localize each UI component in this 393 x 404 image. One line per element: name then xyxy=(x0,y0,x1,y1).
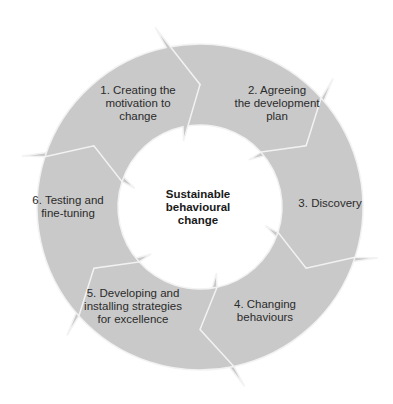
step-1-line2: motivation to xyxy=(88,97,188,110)
step-3-line1: 3. Discovery xyxy=(290,197,370,210)
step-5-line2: installing strategies xyxy=(73,300,193,313)
step-5-label: 5. Developing and installing strategies … xyxy=(73,287,193,326)
step-1-line3: change xyxy=(88,110,188,123)
step-4-label: 4. Changing behaviours xyxy=(220,298,310,324)
center-line1: Sustainable xyxy=(148,188,248,201)
step-1-line1: 1. Creating the xyxy=(88,84,188,97)
step-6-label: 6. Testing and fine-tuning xyxy=(18,194,118,220)
step-6-line2: fine-tuning xyxy=(18,207,118,220)
step-4-line1: 4. Changing xyxy=(220,298,310,311)
step-2-line1: 2. Agreeing xyxy=(222,84,332,97)
step-5-line1: 5. Developing and xyxy=(73,287,193,300)
step-3-label: 3. Discovery xyxy=(290,197,370,210)
center-line3: change xyxy=(148,214,248,227)
step-4-line2: behaviours xyxy=(220,311,310,324)
step-5-line3: for excellence xyxy=(73,313,193,326)
step-2-line2: the development xyxy=(222,97,332,110)
step-6-line1: 6. Testing and xyxy=(18,194,118,207)
center-line2: behavioural xyxy=(148,201,248,214)
step-2-line3: plan xyxy=(222,110,332,123)
step-2-label: 2. Agreeing the development plan xyxy=(222,84,332,123)
center-label: Sustainable behavioural change xyxy=(148,188,248,227)
step-1-label: 1. Creating the motivation to change xyxy=(88,84,188,123)
